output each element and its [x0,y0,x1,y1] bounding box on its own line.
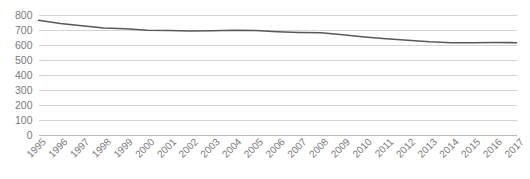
x-axis-tick-label: 2017 [502,136,526,160]
x-axis-tick-label: 2013 [415,136,439,160]
y-axis-tick-label: 400 [15,69,33,81]
y-axis-tick-label: 800 [15,9,33,21]
y-axis-tick-label: 300 [15,84,33,96]
y-axis-tick-label: 700 [15,24,33,36]
x-axis-tick-label: 2015 [459,136,483,160]
x-axis-tick-label: 2009 [329,136,353,160]
x-axis-tick-label: 2001 [155,136,179,160]
x-axis-tick-label: 2002 [176,136,200,160]
line-chart: 0100200300400500600700800 19951996199719… [0,0,530,179]
x-axis-tick-label: 2000 [133,136,157,160]
x-axis-tick-label: 2012 [394,136,418,160]
x-axis-tick-label: 2005 [242,136,266,160]
chart-canvas: 0100200300400500600700800 19951996199719… [0,0,530,179]
y-axis-tick-labels: 0100200300400500600700800 [15,9,33,141]
x-axis-tick-label: 1996 [46,136,70,160]
gridlines [39,16,517,136]
x-axis-tick-label: 2008 [307,136,331,160]
x-axis-tick-label: 2016 [481,136,505,160]
y-axis-tick-label: 200 [15,99,33,111]
x-axis-tick-label: 1999 [111,136,135,160]
y-axis-tick-label: 500 [15,54,33,66]
y-axis-tick-label: 100 [15,114,33,126]
x-axis-tick-label: 2003 [198,136,222,160]
y-axis-tick-label: 0 [27,129,33,141]
x-axis-tick-label: 2014 [437,136,461,160]
x-axis-tick-label: 2004 [220,136,244,160]
x-axis-tick-label: 2010 [350,136,374,160]
y-axis-tick-label: 600 [15,39,33,51]
x-axis-tick-labels: 1995199619971998199920002001200220032004… [24,136,526,160]
x-axis-tick-label: 1997 [68,136,92,160]
x-axis-tick-label: 1998 [90,136,114,160]
x-axis-tick-label: 2006 [263,136,287,160]
series-line [39,20,517,43]
x-axis-tick-label: 2007 [285,136,309,160]
data-series [39,20,517,43]
x-axis-tick-label: 2011 [373,136,396,159]
